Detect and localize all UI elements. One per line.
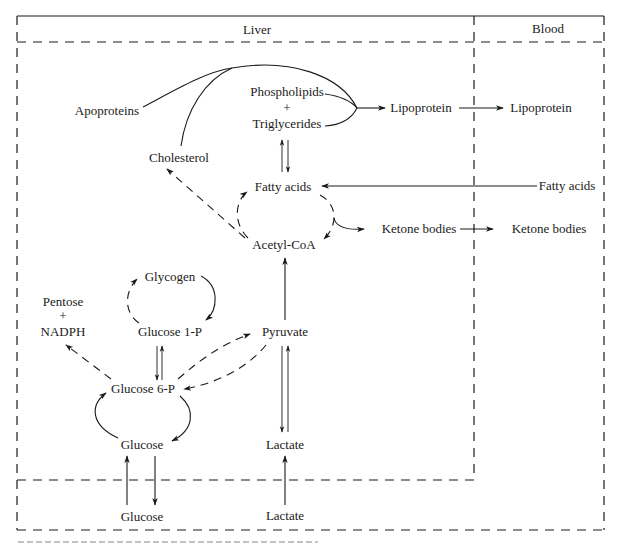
node-pyruvate: Pyruvate <box>262 324 308 339</box>
node-lactate-liver: Lactate <box>266 437 304 452</box>
node-pentose: Pentose <box>43 294 84 309</box>
node-phospholipids: Phospholipids <box>250 84 324 99</box>
edge-g1p-to-glycogen <box>127 279 139 323</box>
edge-glycogen-to-g1p <box>201 276 215 320</box>
edge-acetylcoa-to-fa <box>237 192 248 238</box>
region-label-blood: Blood <box>532 21 564 36</box>
edge-pyruvate-to-g6p <box>184 345 266 389</box>
region-label-liver: Liver <box>243 22 272 37</box>
node-fatty-acids-liver: Fatty acids <box>255 179 312 194</box>
node-glucose-blood: Glucose <box>121 509 164 524</box>
node-ketone-bodies-liver: Ketone bodies <box>382 221 457 236</box>
node-ketone-bodies-blood: Ketone bodies <box>512 221 587 236</box>
node-apoproteins: Apoproteins <box>75 103 139 118</box>
edge-glucose-to-g6p <box>95 393 118 438</box>
node-glucose-6p: Glucose 6-P <box>111 381 175 396</box>
edge-acetylcoa-to-cholesterol <box>167 169 245 238</box>
edge-g6p-to-pentose <box>66 345 111 379</box>
edge-fa-to-acetylcoa <box>320 195 334 239</box>
node-glycogen: Glycogen <box>145 269 196 284</box>
edge-g6p-to-glucose <box>172 396 190 441</box>
node-nadph: NADPH <box>41 324 86 339</box>
node-cholesterol: Cholesterol <box>149 150 209 165</box>
node-plus-2: + <box>59 308 66 323</box>
edge-apoproteins <box>143 68 232 107</box>
metabolic-pathway-diagram: Liver Blood Apoproteins Phospholipids + … <box>0 0 617 544</box>
node-triglycerides: Triglycerides <box>253 116 322 131</box>
node-plus-1: + <box>283 100 290 115</box>
node-lactate-blood: Lactate <box>266 508 304 523</box>
node-fatty-acids-blood: Fatty acids <box>539 178 596 193</box>
node-glucose-1p: Glucose 1-P <box>138 324 202 339</box>
node-acetyl-coa: Acetyl-CoA <box>252 237 316 252</box>
edge-g6p-to-pyruvate <box>178 334 250 379</box>
node-glucose-liver: Glucose <box>121 437 164 452</box>
edge-triglycerides <box>325 108 357 126</box>
edge-cholesterol <box>181 68 232 146</box>
figure-caption-cutoff <box>18 538 318 544</box>
node-lipoprotein-liver: Lipoprotein <box>390 100 452 115</box>
node-lipoprotein-blood: Lipoprotein <box>510 100 572 115</box>
edge-to-ketone-bodies <box>334 218 364 229</box>
